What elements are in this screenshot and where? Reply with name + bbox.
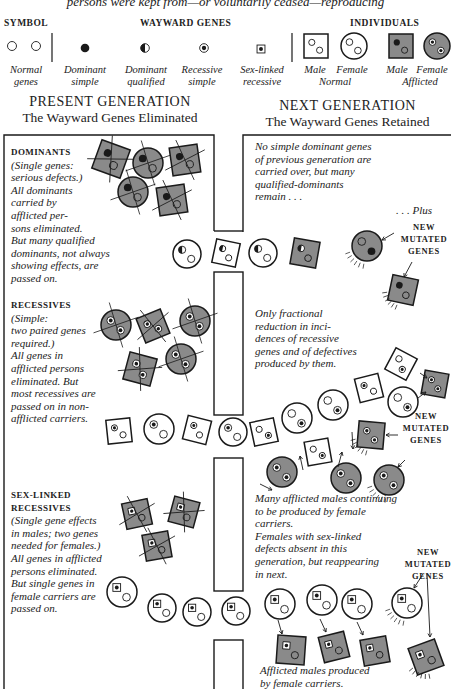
new-mutated-genes-label-1: NEW MUTATED GENES — [396, 221, 451, 257]
sex-linked-gene-icon — [325, 640, 333, 648]
next-sex-linked-note: Many afflicted males continuing to be pr… — [255, 492, 420, 580]
normal-gene-icon — [8, 42, 17, 51]
afflicted-male-individual — [350, 420, 386, 456]
afflicted-male-individual — [276, 635, 306, 665]
recessive-gene-icon — [150, 421, 158, 429]
afflicted-males-note: Afflicted males produced by female carri… — [260, 664, 410, 689]
sex-linked-gene-icon — [154, 600, 161, 607]
dominant-gene-icon — [81, 44, 90, 53]
normal-male-individual — [182, 415, 211, 444]
normal-female-individual — [183, 598, 211, 626]
normal-female-individual — [282, 403, 312, 433]
recessive-gene-icon — [429, 39, 436, 46]
afflicted-female-individual — [345, 231, 382, 269]
normal-male-individual — [385, 348, 417, 380]
arrow-icon — [260, 484, 272, 490]
recessive-gene-icon — [438, 47, 445, 54]
qualified-dominant-gene-icon — [141, 44, 150, 53]
afflicted-female-individual — [267, 457, 297, 487]
sex-linked-gene-icon — [271, 596, 279, 604]
sex-linked-gene-icon — [257, 45, 265, 53]
legend-female-afflicted-icon — [424, 33, 450, 59]
arrow-icon — [320, 619, 326, 632]
individuals-layer — [82, 130, 449, 684]
plus-note: . . . Plus — [396, 204, 432, 217]
afflicted-male-individual — [379, 273, 418, 313]
normal-male-individual — [354, 373, 383, 402]
sex-linked-gene-icon — [283, 642, 291, 650]
afflicted-male-individual — [161, 136, 208, 183]
recessive-gene-icon — [337, 470, 345, 478]
legend-symbols — [8, 33, 451, 59]
recessive-gene-icon — [200, 44, 209, 53]
new-mutated-genes-label-2: NEW MUTATED GENES — [398, 410, 451, 446]
next-recessives-note: Only fractional reduction in inci- dence… — [255, 307, 385, 370]
normal-gene-icon — [32, 42, 41, 51]
normal-female-individual — [219, 418, 247, 446]
afflicted-male-individual — [148, 176, 195, 223]
afflicted-male-individual — [290, 238, 320, 268]
normal-male-individual — [250, 418, 278, 446]
afflicted-male-individual — [160, 488, 208, 536]
new-mutated-genes-label-3: NEW MUTATED GENES — [400, 546, 451, 582]
recessive-gene-icon — [298, 419, 306, 427]
normal-male-individual — [212, 239, 240, 267]
normal-female-individual — [318, 390, 348, 420]
normal-female-individual — [173, 240, 201, 268]
afflicted-male-individual — [114, 343, 165, 394]
arrow-icon — [404, 262, 412, 277]
recessive-gene-icon — [283, 473, 291, 481]
sex-linked-description: SEX-LINKED RECESSIVES (Single gene effec… — [11, 489, 131, 615]
recessive-gene-icon — [334, 406, 342, 414]
afflicted-male-individual — [134, 523, 179, 568]
arrow-icon — [398, 460, 405, 467]
arrow-icon — [427, 574, 432, 637]
recessive-gene-icon — [273, 464, 281, 472]
normal-female-individual — [342, 589, 372, 619]
sex-linked-gene-icon — [189, 604, 196, 611]
normal-female-individual — [144, 414, 174, 444]
normal-male-individual — [304, 438, 332, 466]
afflicted-male-individual — [360, 636, 390, 666]
legend-male-normal-icon — [304, 34, 328, 58]
afflicted-male-individual — [318, 631, 350, 663]
recessive-gene-icon — [111, 424, 118, 431]
normal-female-individual — [222, 597, 250, 625]
arrow-icon — [278, 620, 283, 634]
sex-linked-gene-icon — [398, 595, 406, 603]
arrow-icon — [357, 622, 363, 635]
next-dominants-note: No simple dominant genes of previous gen… — [255, 140, 395, 203]
recessive-gene-icon — [363, 427, 370, 434]
normal-female-individual — [307, 585, 337, 615]
normal-female-individual — [148, 594, 176, 622]
dominants-description: DOMINANTS (Single genes: serious defects… — [11, 146, 121, 285]
recessive-gene-icon — [371, 436, 378, 443]
arrow-icon — [386, 433, 398, 437]
legend-female-normal-icon — [341, 33, 367, 59]
dominant-gene-icon — [394, 39, 400, 45]
sex-linked-gene-icon — [313, 592, 321, 600]
sex-linked-gene-icon — [348, 596, 356, 604]
qualified-dominant-gene-icon — [179, 246, 186, 253]
afflicted-female-individual — [173, 299, 218, 344]
sex-linked-gene-icon — [148, 539, 156, 547]
afflicted-male-individual — [128, 301, 179, 352]
qualified-dominant-gene-icon — [255, 245, 262, 252]
normal-female-individual — [249, 239, 277, 267]
sex-linked-gene-icon — [366, 644, 374, 652]
recessive-gene-icon — [380, 472, 388, 480]
normal-female-individual — [265, 589, 295, 619]
arrow-icon — [382, 233, 394, 240]
recessive-gene-icon — [225, 424, 232, 431]
sex-linked-gene-icon — [228, 603, 235, 610]
normal-female-individual — [385, 588, 422, 626]
legend-male-afflicted-icon — [389, 34, 413, 58]
afflicted-female-individual — [331, 463, 361, 493]
recessives-description: RECESSIVES (Simple: two paired genes req… — [11, 298, 111, 425]
afflicted-female-individual — [159, 337, 204, 382]
recessive-gene-icon — [347, 479, 355, 487]
recessive-gene-icon — [390, 481, 398, 489]
arrow-icon — [299, 456, 303, 470]
dominant-gene-icon — [368, 247, 376, 255]
